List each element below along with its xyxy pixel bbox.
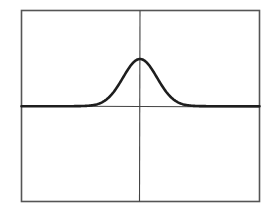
gaussian-curve <box>22 59 260 106</box>
gaussian-pulse-chart <box>0 0 275 210</box>
